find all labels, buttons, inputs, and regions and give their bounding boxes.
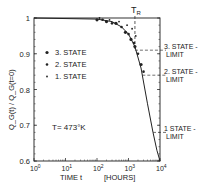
data-point <box>101 18 104 21</box>
legend-entry: 2. STATE <box>55 60 86 69</box>
tr-label: TR <box>131 5 142 16</box>
y-tick-label: 1 <box>26 14 30 23</box>
limit-label: LIMIT <box>166 76 185 83</box>
x-axis-label: TIME t <box>60 173 83 182</box>
data-point <box>105 20 108 23</box>
x-tick-label: 102 <box>93 163 104 172</box>
temperature-annotation: T= 473°K <box>52 123 86 132</box>
legend-entry: 3. STATE <box>55 48 86 57</box>
fit-curve <box>34 18 160 161</box>
x-tick-label: 104 <box>156 163 167 172</box>
data-point <box>131 28 133 30</box>
x-tick-label: 100 <box>30 163 41 172</box>
data-point <box>127 33 130 36</box>
x-tick-label: 103 <box>125 163 136 172</box>
limit-label: LIMIT <box>166 133 185 140</box>
data-point <box>142 70 145 73</box>
data-point <box>139 63 142 66</box>
data-points <box>95 17 144 73</box>
legend-entry: 1. STATE <box>55 72 86 81</box>
y-tick-label: 0.7 <box>20 121 30 130</box>
data-point <box>118 21 120 23</box>
chart: 0.60.70.80.91 100101102103104 3. STATE -… <box>0 0 209 191</box>
x-axis-unit: [HOURS] <box>104 173 135 182</box>
limit-label: 2. STATE - <box>164 68 198 75</box>
data-point <box>137 52 140 55</box>
limit-label: 3. STATE - <box>164 43 198 50</box>
data-point <box>111 22 114 25</box>
y-axis: 0.60.70.80.91 <box>20 14 160 166</box>
y-tick-label: 0.9 <box>20 50 30 59</box>
data-point <box>124 31 127 34</box>
plot-frame <box>34 18 160 161</box>
data-point <box>95 18 98 21</box>
data-point <box>120 26 123 29</box>
y-axis-label: Q_G(t) / Q_G(t=0) <box>7 69 16 130</box>
y-tick-label: 0.6 <box>20 157 30 166</box>
data-point <box>109 19 111 21</box>
x-axis: 100101102103104 <box>30 158 167 172</box>
y-tick-label: 0.8 <box>20 86 30 95</box>
data-point <box>114 22 117 25</box>
state-limits: 3. STATE -LIMIT2. STATE -LIMIT1 STATE -L… <box>135 43 198 140</box>
limit-label: LIMIT <box>166 51 185 58</box>
limit-label: 1 STATE - <box>164 125 196 132</box>
x-tick-label: 101 <box>62 163 73 172</box>
data-point <box>126 24 128 26</box>
data-point <box>129 38 132 41</box>
legend: 3. STATE2. STATE1. STATE <box>45 48 86 81</box>
data-point <box>99 17 101 19</box>
